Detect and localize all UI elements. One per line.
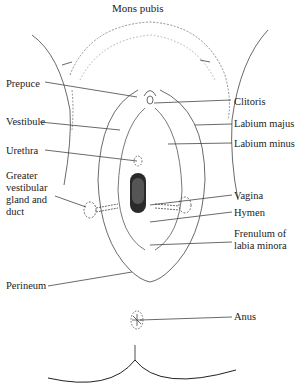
label-perineum: Perineum [6,280,46,292]
label-line: labia minora [234,240,304,252]
label-vagina: Vagina [234,190,263,202]
label-frenulum: Frenulum of labia minora [234,228,304,252]
label-line: Greater [6,170,66,182]
left-thigh-line [32,35,70,185]
label-line: duct [6,206,66,218]
label-labium-majus: Labium majus [234,118,294,130]
label-anus: Anus [234,311,256,323]
label-line: Frenulum of [234,228,304,240]
label-line: vestibular [6,182,66,194]
labium-majus-right [150,90,205,282]
anatomy-diagram: Mons pubis Prepuce Clitoris Vestibule La… [0,0,305,391]
mons-hair [70,22,229,120]
label-greater-vestibular-gland: Greater vestibular gland and duct [6,170,66,218]
labium-minus-right [155,108,182,250]
clitoris-shape [147,96,153,104]
buttocks-line [48,360,236,382]
label-vestibule: Vestibule [6,116,45,128]
right-thigh-line [232,30,268,200]
label-urethra: Urethra [6,145,38,157]
label-hymen: Hymen [234,207,265,219]
label-clitoris: Clitoris [234,96,266,108]
label-prepuce: Prepuce [6,78,40,90]
label-line: gland and [6,194,66,206]
label-labium-minus: Labium minus [234,138,295,150]
label-mons-pubis: Mons pubis [112,2,164,14]
